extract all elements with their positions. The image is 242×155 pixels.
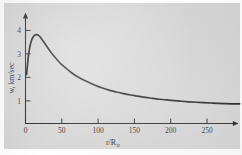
x-tick-label-200: 200 [165,126,177,135]
figure-container: 1 2 3 4 0 50 100 150 200 250 r/R⊙ w, km/ [0,0,242,155]
x-tick-label-50: 50 [58,126,66,135]
x-axis-title-subscript: ⊙ [116,142,120,148]
data-series-solar-wind-speed [27,35,240,104]
x-tick-labels: 0 50 100 150 200 250 [24,126,213,135]
y-tick-label-1: 1 [17,97,21,106]
y-tick-labels: 1 2 3 4 [17,26,21,106]
x-tick-label-250: 250 [201,126,213,135]
y-tick-label-3: 3 [17,50,21,59]
y-tick-label-4: 4 [17,26,21,35]
y-axis-arrow-icon [23,13,28,19]
chart-plot: 1 2 3 4 0 50 100 150 200 250 r/R⊙ w, km/ [0,0,242,155]
x-tick-marks [26,119,208,124]
y-tick-label-2: 2 [17,73,21,82]
x-axis-arrow-icon [233,121,239,126]
x-tick-label-0: 0 [24,126,28,135]
y-axis-title: w, km/sec [7,62,16,94]
x-axis-title: r/R⊙ [106,138,120,148]
x-tick-label-150: 150 [129,126,141,135]
x-tick-label-100: 100 [92,126,104,135]
axes-group [23,13,239,126]
